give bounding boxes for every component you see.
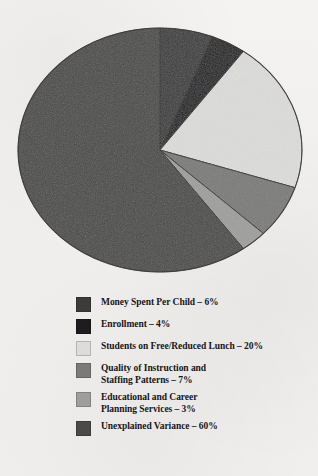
legend-swatch [76,319,91,334]
legend-label: Enrollment – 4% [101,318,170,331]
legend: Money Spent Per Child – 6%Enrollment – 4… [0,296,318,442]
legend-item: Enrollment – 4% [0,318,318,334]
legend-swatch [76,392,91,407]
legend-label: Students on Free/Reduced Lunch – 20% [101,340,263,353]
legend-swatch [76,363,91,378]
pie-chart-svg [0,0,318,285]
pie-chart [0,0,318,285]
legend-item: Money Spent Per Child – 6% [0,296,318,312]
legend-label: Money Spent Per Child – 6% [101,296,219,309]
legend-item: Students on Free/Reduced Lunch – 20% [0,340,318,356]
legend-swatch [76,297,91,312]
legend-label: Unexplained Variance – 60% [101,420,218,433]
legend-item: Quality of Instruction and Staffing Patt… [0,362,318,386]
legend-item: Unexplained Variance – 60% [0,420,318,436]
legend-label: Quality of Instruction and Staffing Patt… [101,362,206,386]
legend-item: Educational and Career Planning Services… [0,391,318,415]
legend-swatch [76,421,91,436]
legend-label: Educational and Career Planning Services… [101,391,197,415]
legend-swatch [76,341,91,356]
pie-slices [18,28,302,272]
